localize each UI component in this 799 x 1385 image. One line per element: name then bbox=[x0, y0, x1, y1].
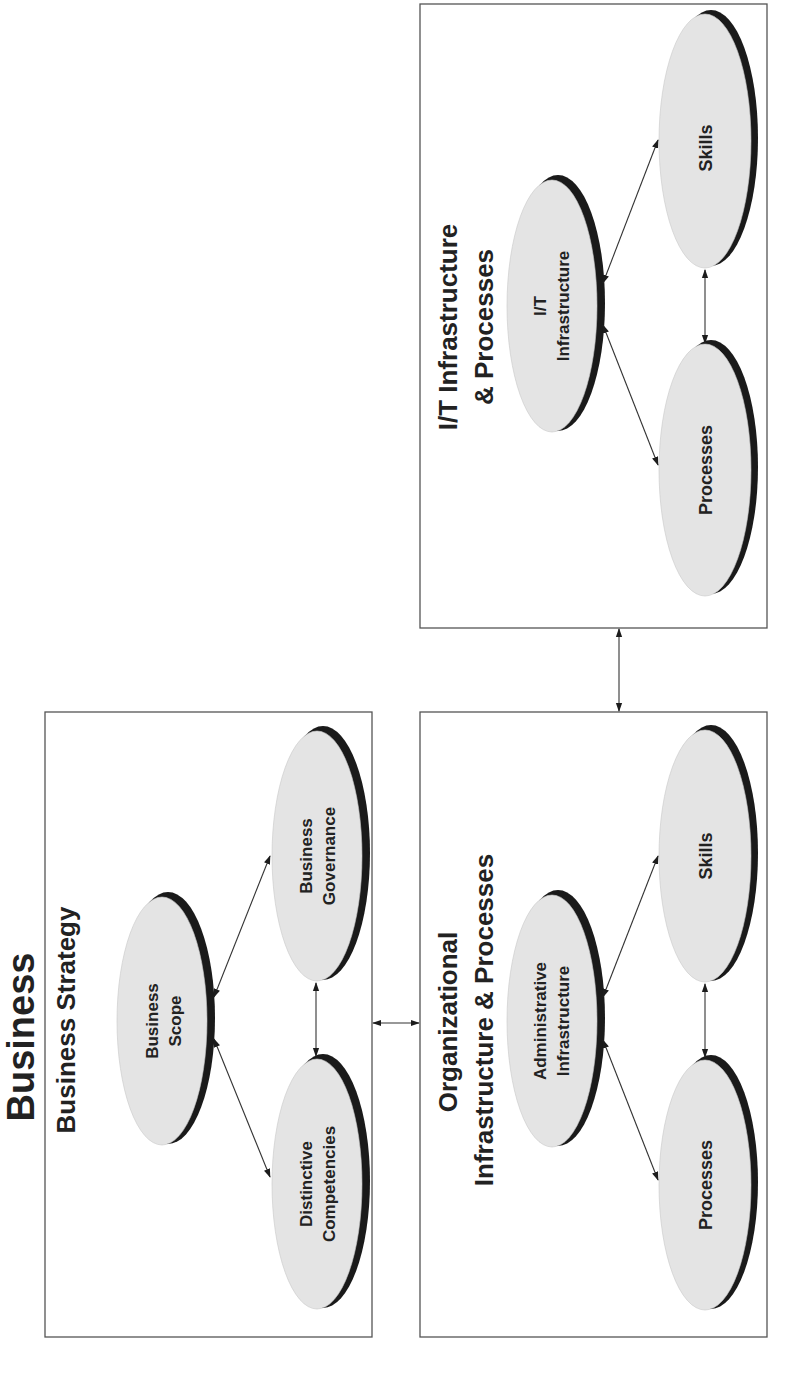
node-label-line2: Competencies bbox=[320, 1126, 339, 1242]
node-label-line1: Administrative bbox=[531, 962, 550, 1080]
node-label-line1: Distinctive bbox=[297, 1141, 316, 1227]
node-label: Skills bbox=[696, 832, 716, 879]
node-administrative-infrastructure[interactable]: Administrative Infrastructure bbox=[507, 890, 605, 1147]
node-org-skills[interactable]: Skills bbox=[659, 725, 758, 982]
node-label: Processes bbox=[696, 425, 716, 515]
node-business-scope[interactable]: Business Scope bbox=[117, 892, 215, 1145]
oval bbox=[272, 731, 362, 981]
oval bbox=[117, 897, 207, 1145]
panel-it-infrastructure: I/T Infrastructure & Processes I/T Infra… bbox=[420, 4, 767, 628]
node-it-processes[interactable]: Processes bbox=[659, 340, 758, 596]
node-label: Skills bbox=[696, 124, 716, 171]
panel-title-line1: I/T Infrastructure bbox=[433, 224, 463, 431]
panel-title-line2: & Processes bbox=[469, 249, 499, 405]
node-business-governance[interactable]: Business Governance bbox=[272, 726, 370, 981]
strategic-alignment-diagram: Business Business Strategy Business Scop… bbox=[0, 0, 799, 1385]
node-label-line2: Scope bbox=[166, 995, 185, 1046]
node-label-line1: Business bbox=[297, 818, 316, 894]
diagram-title: Business bbox=[0, 953, 42, 1122]
panel-title: Business Strategy bbox=[51, 906, 81, 1133]
node-label-line2: Governance bbox=[320, 807, 339, 905]
oval bbox=[272, 1059, 362, 1309]
node-it-skills[interactable]: Skills bbox=[659, 10, 758, 268]
node-label-line1: Business bbox=[143, 983, 162, 1059]
oval bbox=[507, 895, 597, 1147]
panel-title-line1: Organizational bbox=[433, 932, 463, 1113]
panel-organizational: Organizational Infrastructure & Processe… bbox=[420, 712, 767, 1337]
node-distinctive-competencies[interactable]: Distinctive Competencies bbox=[272, 1054, 370, 1309]
node-label: Processes bbox=[696, 1140, 716, 1230]
panel-title-line2: Infrastructure & Processes bbox=[469, 854, 499, 1186]
node-label-line1: I/T bbox=[531, 295, 550, 315]
node-it-infrastructure[interactable]: I/T Infrastructure bbox=[507, 175, 605, 432]
panel-business-strategy: Business Strategy Business Scope Busines… bbox=[45, 712, 372, 1337]
oval bbox=[507, 180, 597, 432]
node-label-line2: Infrastructure bbox=[554, 251, 573, 362]
node-org-processes[interactable]: Processes bbox=[659, 1055, 758, 1310]
node-label-line2: Infrastructure bbox=[554, 966, 573, 1077]
